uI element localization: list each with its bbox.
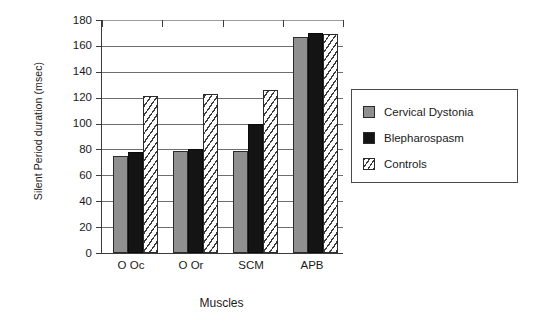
x-tick-mark-3	[283, 20, 284, 27]
chart-legend: Cervical Dystonia Blepharospasm Controls	[351, 89, 518, 183]
legend-swatch-cervical-dystonia	[363, 106, 375, 118]
legend-label-blepharospasm: Blepharospasm	[384, 132, 464, 144]
y-tick-label-80: 80	[52, 143, 92, 155]
bar-cervical-dystonia-o-oc	[113, 156, 128, 253]
legend-swatch-controls	[363, 158, 375, 170]
bar-controls-o-or	[203, 94, 218, 253]
x-tick-mark-4	[343, 20, 344, 27]
y-tick-mark-120	[96, 98, 102, 99]
y-tick-mark-100	[96, 124, 102, 125]
y-tick-label-120: 120	[52, 91, 92, 103]
y-tick-label-40: 40	[52, 195, 92, 207]
y-tick-mark-40	[96, 201, 102, 202]
legend-label-controls: Controls	[384, 158, 427, 170]
y-tick-mark-140	[96, 72, 102, 73]
bar-controls-scm	[263, 90, 278, 253]
bar-controls-o-oc	[143, 96, 158, 253]
y-tick-label-60: 60	[52, 169, 92, 181]
y-tick-mark-160	[96, 46, 102, 47]
y-tick-label-100: 100	[52, 117, 92, 129]
y-tick-mark-60	[96, 175, 102, 176]
bar-cervical-dystonia-o-or	[173, 151, 188, 253]
y-tick-label-180: 180	[52, 14, 92, 26]
x-tick-label-o-or: O Or	[161, 259, 221, 271]
legend-item-cervical-dystonia: Cervical Dystonia	[363, 99, 517, 125]
bar-cervical-dystonia-scm	[233, 151, 248, 253]
legend-item-blepharospasm: Blepharospasm	[363, 125, 517, 151]
x-tick-mark-0	[102, 20, 103, 27]
y-tick-label-20: 20	[52, 221, 92, 233]
bar-chart-figure: Silent Period duration (msec) 180 160 14…	[0, 0, 549, 323]
bar-blepharospasm-o-oc	[128, 152, 143, 253]
x-tick-label-o-oc: O Oc	[101, 259, 161, 271]
x-tick-mark-2	[223, 20, 224, 27]
x-tick-label-scm: SCM	[221, 259, 281, 271]
y-axis-title: Silent Period duration (msec)	[32, 21, 44, 241]
bar-blepharospasm-apb	[308, 33, 323, 253]
x-tick-mark-1	[162, 20, 163, 27]
legend-label-cervical-dystonia: Cervical Dystonia	[384, 106, 473, 118]
y-tick-mark-0	[96, 253, 102, 254]
bar-blepharospasm-scm	[248, 124, 263, 253]
y-tick-label-0: 0	[52, 247, 92, 259]
y-tick-label-140: 140	[52, 65, 92, 77]
x-tick-label-apb: APB	[282, 259, 342, 271]
y-tick-mark-80	[96, 149, 102, 150]
bar-controls-apb	[323, 34, 338, 253]
bar-cervical-dystonia-apb	[293, 37, 308, 253]
y-tick-label-160: 160	[52, 39, 92, 51]
x-axis-title: Muscles	[101, 296, 342, 310]
plot-area	[101, 20, 343, 254]
y-tick-mark-20	[96, 227, 102, 228]
legend-item-controls: Controls	[363, 151, 517, 177]
legend-swatch-blepharospasm	[363, 132, 375, 144]
bar-blepharospasm-o-or	[188, 149, 203, 253]
